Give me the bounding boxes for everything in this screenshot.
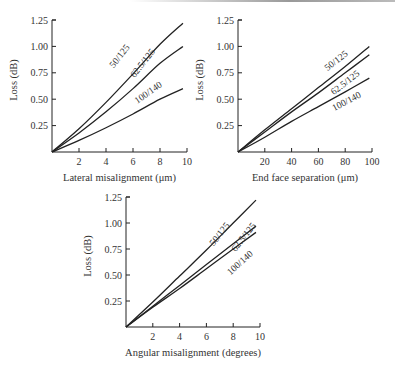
x-tick-label: 4 (177, 331, 182, 342)
chart-lateral-misalignment: 0.250.500.751.001.25246810Lateral misali… (8, 15, 192, 185)
y-tick-label: 0.75 (217, 67, 235, 78)
x-tick-label: 80 (340, 156, 350, 167)
y-tick-label: 0.50 (105, 270, 123, 281)
y-tick-label: 1.00 (217, 41, 235, 52)
y-tick-label: 1.25 (105, 192, 123, 203)
axes (52, 20, 187, 152)
x-tick-label: 2 (77, 156, 82, 167)
x-tick-label: 6 (131, 156, 136, 167)
series-label: 100/140 (133, 79, 164, 105)
x-axis-title: Angular misalignment (degrees) (125, 347, 261, 359)
x-tick-label: 10 (255, 331, 265, 342)
x-axis-title: Lateral misalignment (μm) (63, 172, 176, 184)
x-tick-label: 10 (182, 156, 192, 167)
charts-canvas: 0.250.500.751.001.25246810Lateral misali… (0, 0, 395, 371)
x-tick-label: 2 (150, 331, 155, 342)
series-label: 62.5/125 (128, 47, 157, 80)
x-tick-label: 40 (287, 156, 297, 167)
y-tick-label: 1.00 (31, 41, 49, 52)
series-label: 50/125 (108, 42, 132, 69)
y-tick-label: 1.25 (217, 15, 235, 26)
y-tick-label: 0.75 (105, 244, 123, 255)
series-line-100-140 (52, 89, 183, 152)
series-line-100-140 (238, 78, 369, 152)
chart-end-face-separation: 0.250.500.751.001.2520406080100End face … (194, 15, 380, 185)
series-label: 50/125 (208, 220, 232, 247)
x-tick-label: 20 (260, 156, 270, 167)
y-axis-title: Loss (dB) (194, 59, 206, 101)
axes (238, 20, 372, 152)
x-tick-label: 8 (231, 331, 236, 342)
series-line-100-140 (126, 232, 256, 327)
y-axis-title: Loss (dB) (82, 235, 94, 277)
x-axis-title: End face separation (μm) (252, 172, 359, 184)
y-tick-label: 0.25 (217, 120, 235, 131)
y-tick-label: 1.25 (31, 15, 49, 26)
x-tick-label: 100 (365, 156, 380, 167)
series-label: 100/140 (225, 248, 255, 276)
x-tick-label: 4 (104, 156, 109, 167)
y-tick-label: 0.25 (105, 296, 123, 307)
y-tick-label: 0.25 (31, 120, 49, 131)
chart-angular-misalignment: 0.250.500.751.001.25246810Angular misali… (82, 192, 265, 360)
y-tick-label: 0.50 (31, 94, 49, 105)
y-axis-title: Loss (dB) (8, 59, 20, 101)
y-tick-label: 0.75 (31, 67, 49, 78)
x-tick-label: 6 (204, 331, 209, 342)
y-tick-label: 1.00 (105, 218, 123, 229)
series-label: 50/125 (323, 48, 350, 72)
y-tick-label: 0.50 (217, 94, 235, 105)
x-tick-label: 8 (158, 156, 163, 167)
x-tick-label: 60 (313, 156, 323, 167)
